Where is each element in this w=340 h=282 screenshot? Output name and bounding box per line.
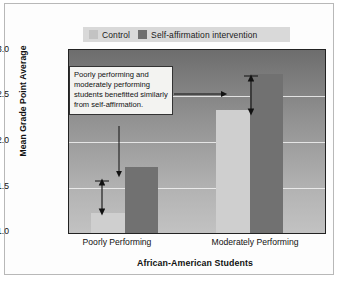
control-swatch-icon bbox=[89, 30, 98, 39]
y-tick-label-1-0: 1.0 bbox=[0, 226, 9, 236]
x-tick-label-poorly-performing: Poorly Performing bbox=[63, 237, 171, 247]
y-tick-label-1-5: 1.5 bbox=[0, 181, 9, 191]
figure-frame: Control Self-affirmation intervention Me… bbox=[4, 3, 334, 275]
y-tick-label-2-0: 2.0 bbox=[0, 135, 9, 145]
legend-item-control: Control bbox=[89, 30, 130, 40]
bar-intervention-poorly-performing bbox=[125, 167, 158, 233]
chart-legend: Control Self-affirmation intervention bbox=[83, 27, 290, 42]
bar-intervention-moderately-performing bbox=[250, 74, 283, 233]
intervention-swatch-icon bbox=[138, 30, 147, 39]
y-tick-label-3-0: 3.0 bbox=[0, 44, 9, 54]
legend-item-intervention: Self-affirmation intervention bbox=[138, 30, 257, 40]
y-tick-label-2-5: 2.5 bbox=[0, 89, 9, 99]
annotation-callout: Poorly performing and moderately perform… bbox=[69, 66, 173, 115]
legend-label-intervention: Self-affirmation intervention bbox=[151, 30, 257, 40]
x-axis-title: African-American Students bbox=[61, 258, 329, 268]
x-tick-label-moderately-performing: Moderately Performing bbox=[190, 237, 320, 247]
gridline-2-0 bbox=[69, 142, 325, 143]
legend-label-control: Control bbox=[102, 30, 130, 40]
bar-control-moderately-performing bbox=[216, 110, 250, 233]
y-axis-title: Mean Grade Point Average bbox=[18, 21, 28, 181]
bar-control-poorly-performing bbox=[91, 213, 125, 233]
gridline-1-5 bbox=[69, 188, 325, 189]
